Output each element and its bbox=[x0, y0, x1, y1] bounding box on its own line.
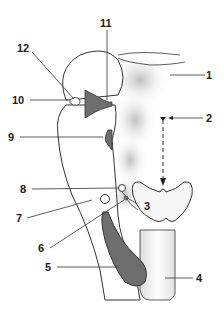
dashed-arrow bbox=[160, 117, 166, 186]
label-6: 6 bbox=[38, 242, 44, 254]
label-8: 8 bbox=[20, 183, 26, 195]
label-3: 3 bbox=[144, 200, 150, 212]
label-10: 10 bbox=[12, 94, 24, 106]
label-4: 4 bbox=[196, 272, 203, 284]
small-circle-8 bbox=[119, 185, 126, 192]
label-1: 1 bbox=[206, 69, 212, 81]
small-circle-7 bbox=[101, 195, 110, 204]
arrowhead-2 bbox=[168, 116, 173, 120]
label-7: 7 bbox=[16, 212, 22, 224]
butterfly-gland bbox=[132, 182, 192, 222]
label-12: 12 bbox=[17, 42, 29, 54]
label-5: 5 bbox=[45, 261, 51, 273]
label-9: 9 bbox=[8, 131, 14, 143]
small-pouch bbox=[70, 97, 80, 105]
label-11: 11 bbox=[100, 17, 112, 29]
tube-structure bbox=[140, 230, 175, 300]
anatomy-diagram: 1 2 3 4 5 6 7 8 9 10 11 12 bbox=[0, 0, 224, 322]
label-2: 2 bbox=[206, 112, 212, 124]
upper-lobe bbox=[63, 51, 123, 100]
